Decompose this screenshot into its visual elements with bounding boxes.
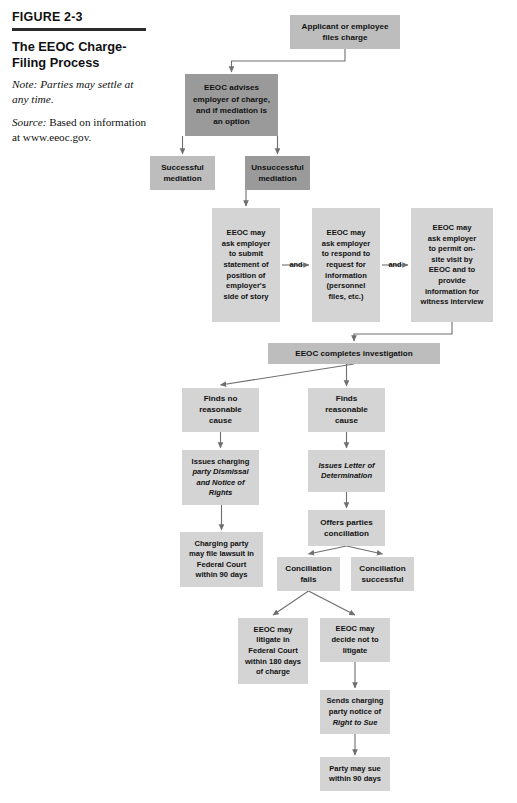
flow-node-label-line: files charge: [323, 33, 368, 42]
flow-node-label-line: site visit by: [431, 255, 473, 264]
flow-node-label-line: Issues Letter of: [318, 461, 376, 470]
flow-node-label-line: reasonable: [325, 405, 368, 414]
flow-node-party-may-sue: Party may suewithin 90 days: [320, 757, 390, 791]
flow-node-label-line: ask employer: [322, 239, 371, 248]
flow-node-label-line: Federal Court: [248, 646, 298, 655]
flow-node-label-line: provide: [438, 276, 465, 285]
flow-node-label-line: conciliation: [324, 529, 369, 538]
flow-node-label-line: information for: [425, 287, 479, 296]
connector-completes-investigation-to-finds-no-cause: [221, 364, 355, 385]
flow-node-label-line: Conciliation: [285, 564, 331, 573]
flow-node-label-line: cause: [335, 416, 358, 425]
flow-node-label-line: to permit on-: [429, 244, 476, 253]
connector-conciliation-fails-to-eeoc-not-litigate: [309, 591, 356, 615]
flow-node-label-line: position of: [227, 271, 266, 280]
connector-ask-onsite-to-completes-investigation: [354, 322, 452, 341]
edge-label-and-1: and: [289, 260, 303, 269]
flow-node-label-line: cause: [209, 416, 232, 425]
flow-node-label-line: within 180 days: [244, 657, 301, 666]
flow-node-label-line: mediation: [163, 174, 201, 183]
flow-node-label-line: EEOC advises: [204, 83, 259, 92]
flow-node-label-line: ask employer: [428, 234, 477, 243]
flow-node-label-line: within 90 days: [328, 774, 381, 783]
flow-node-label-line: party notice of: [329, 707, 382, 716]
flow-node-label-line: to submit: [229, 249, 264, 258]
flow-node-label-line: (personnel: [327, 281, 366, 290]
flow-node-unsuccessful-mediation: Unsuccessfulmediation: [245, 156, 310, 190]
connector-offers-conciliation-to-conciliation-fails: [309, 546, 347, 554]
flow-node-ask-respond: EEOC mayask employerto respond torequest…: [312, 208, 380, 322]
flow-node-label-line: Sends charging: [327, 696, 384, 705]
flow-node-label-line: and if mediation is: [196, 106, 268, 115]
flow-node-label-line: EEOC may: [433, 223, 473, 232]
flow-node-label-line: EEOC may: [227, 228, 267, 237]
flow-node-label-line: ask employer: [222, 239, 271, 248]
flow-node-label-line: employer's: [226, 281, 266, 290]
flow-node-label-line: to respond to: [322, 249, 371, 258]
flow-node-label-line: Determination: [321, 471, 372, 480]
flowchart-nodes: Applicant or employeefiles chargeEEOC ad…: [150, 15, 493, 791]
flow-node-label-line: EEOC completes investigation: [295, 349, 412, 358]
flow-node-label-line: an option: [213, 117, 249, 126]
flow-node-label-line: litigate in: [256, 635, 290, 644]
flow-node-label-line: information: [325, 271, 367, 280]
flow-node-finds-no-cause: Finds noreasonablecause: [182, 388, 259, 432]
flow-node-label-line: EEOC and to: [429, 265, 476, 274]
connector-offers-conciliation-to-conciliation-successful: [347, 546, 383, 554]
flow-node-label-line: employer of charge,: [193, 95, 270, 104]
flow-node-sends-right-to-sue: Sends chargingparty notice ofRight to Su…: [320, 690, 390, 734]
connector-conciliation-fails-to-eeoc-litigate: [273, 591, 309, 615]
flow-node-label-line: EEOC may: [327, 228, 367, 237]
flow-node-label-line: Federal Court: [197, 560, 247, 569]
flow-node-ask-statement: EEOC mayask employerto submitstatement o…: [212, 208, 280, 322]
edge-label-and-2: and: [388, 260, 402, 269]
flow-node-label-line: Rights: [209, 488, 233, 497]
flow-node-conciliation-fails: Conciliationfails: [277, 557, 340, 591]
flow-node-label-line: reasonable: [199, 405, 242, 414]
flow-node-applicant-files: Applicant or employeefiles charge: [290, 15, 400, 49]
flow-node-label-line: successful: [362, 575, 404, 584]
flow-node-label-line: Charging party: [194, 539, 249, 548]
flow-node-label-line: litigate: [343, 646, 367, 655]
flow-node-completes-investigation: EEOC completes investigation: [268, 343, 440, 364]
flow-node-label-line: side of story: [223, 292, 269, 301]
flow-node-label-line: of charge: [256, 667, 290, 676]
flow-node-label-line: within 90 days: [195, 570, 248, 579]
flow-node-label-line: Conciliation: [359, 564, 405, 573]
flow-node-label-line: Finds: [336, 394, 358, 403]
flow-node-finds-cause: Findsreasonablecause: [308, 388, 385, 432]
flow-node-issues-letter: Issues Letter ofDetermination: [308, 450, 385, 492]
flow-node-ask-onsite: EEOC mayask employerto permit on-site vi…: [411, 208, 493, 322]
flow-node-label-line: Party may sue: [329, 764, 381, 773]
flow-node-charging-party-lawsuit: Charging partymay file lawsuit inFederal…: [180, 532, 263, 587]
flow-node-label-line: Unsuccessful: [251, 163, 304, 172]
flow-node-label-line: and Notice of: [196, 478, 246, 487]
connector-applicant-files-to-eeoc-advises: [232, 49, 346, 72]
flow-node-label-line: Offers parties: [320, 518, 373, 527]
flow-node-eeoc-not-litigate: EEOC maydecide not tolitigate: [320, 618, 390, 662]
flow-node-label-line: EEOC may: [336, 624, 376, 633]
flow-node-label-line: statement of: [223, 260, 269, 269]
flow-node-label-line: request for: [326, 260, 366, 269]
flow-node-label-line: fails: [300, 575, 317, 584]
flow-node-label-line: Finds no: [204, 394, 238, 403]
flow-node-label-line: Successful: [161, 163, 204, 172]
flow-node-label-line: party Dismissal: [191, 467, 249, 476]
flow-node-label-line: witness interview: [420, 297, 484, 306]
flow-node-offers-conciliation: Offers partiesconciliation: [308, 510, 385, 546]
flow-node-label-line: decide not to: [331, 635, 379, 644]
flow-node-successful-mediation: Successfulmediation: [150, 156, 215, 190]
flow-node-eeoc-litigate: EEOC maylitigate inFederal Courtwithin 1…: [238, 618, 308, 684]
flow-node-eeoc-advises: EEOC advisesemployer of charge,and if me…: [185, 74, 278, 136]
flow-node-issues-dismissal: Issues chargingparty Dismissaland Notice…: [182, 450, 259, 505]
flow-node-label-line: may file lawsuit in: [189, 549, 254, 558]
flow-node-label-line: files, etc.): [328, 292, 363, 301]
eeoc-charge-filing-flowchart: Applicant or employeefiles chargeEEOC ad…: [0, 0, 517, 803]
flow-node-label-line: Issues charging: [192, 457, 250, 466]
flow-node-label-line: Applicant or employee: [302, 22, 389, 31]
flow-node-label-line: mediation: [258, 174, 296, 183]
flow-node-label-line: EEOC may: [254, 625, 294, 634]
flow-node-label-line: Right to Sue: [333, 718, 378, 727]
flow-node-conciliation-successful: Conciliationsuccessful: [351, 557, 414, 591]
